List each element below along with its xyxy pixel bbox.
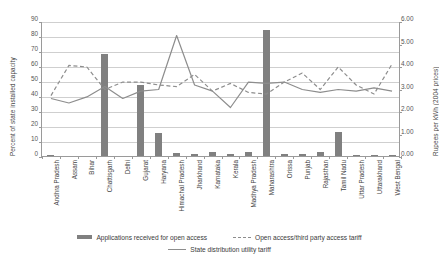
x-axis-label: Rajasthan (322, 160, 329, 188)
x-axis-label: Delhi (124, 160, 131, 174)
y-tick-label: 40 (31, 91, 38, 97)
x-axis-label: Jharkhand (196, 160, 203, 189)
y2-tick-label: 3.00 (401, 84, 413, 90)
x-axis-label: Andhra Pradesh (53, 160, 60, 206)
legend-item-applications: Applications received for open access (77, 234, 207, 241)
x-axis-label: Gujarat (142, 160, 149, 181)
legend-label: Open access/third party access tariff (255, 234, 362, 241)
y2-tick-label: 4.00 (401, 61, 413, 67)
y2-tick-label: 5.00 (401, 39, 413, 45)
x-axis-label: Himachal Pradesh (178, 160, 185, 211)
x-axis-labels: Andhra PradeshAssamBiharChattisgarhDelhi… (41, 160, 400, 228)
y-tick-label: 10 (31, 136, 38, 142)
state-utility-tariff-line (51, 36, 392, 108)
x-tick-mark (401, 156, 402, 159)
y2-tick-label: 1.00 (401, 129, 413, 135)
x-axis-label: Tamil Nadu (340, 160, 347, 192)
x-axis-label: Chattisgarh (106, 160, 113, 192)
legend-item-state-utility-tariff: State distribution utility tariff (168, 246, 271, 253)
y-axis-left-title: Percent of state installed capacity (9, 57, 16, 156)
line-series-layer (42, 22, 401, 157)
x-axis-label: Punjab (304, 160, 311, 180)
y-tick-label: 60 (31, 61, 38, 67)
y-tick-label: 70 (31, 46, 38, 52)
y-tick-label: 50 (31, 76, 38, 82)
x-axis-label: Karnataka (214, 160, 221, 189)
x-axis-label: Assam (71, 160, 78, 179)
legend-label: State distribution utility tariff (190, 246, 271, 253)
y-tick-label: 30 (31, 106, 38, 112)
y2-tick-label: 2.00 (401, 106, 413, 112)
y-tick-label: 80 (31, 31, 38, 37)
y-tick-label: 0 (34, 151, 38, 157)
x-axis-label: Maharashtra (268, 160, 275, 195)
x-axis-label: Bihar (88, 160, 95, 175)
x-axis-label: Uttarakhand (376, 160, 383, 194)
dashed-line-swatch-icon (233, 237, 251, 238)
y-tick-label: 90 (31, 16, 38, 22)
y-axis-left-ticks: 0102030405060708090 (16, 19, 38, 158)
x-axis-label: Uttar Pradesh (358, 160, 365, 199)
y2-tick-label: 0.00 (401, 151, 413, 157)
chart-figure: Percent of state installed capacity Rupe… (0, 0, 439, 267)
bar-swatch-icon (77, 235, 92, 239)
plot-area (41, 22, 400, 157)
x-axis-label: West Bengal (394, 160, 401, 196)
legend-label: Applications received for open access (96, 234, 207, 241)
y2-tick-label: 6.00 (401, 16, 413, 22)
y-axis-right-title: Rupees per kWh (2004 prices) (432, 67, 439, 156)
x-axis-label: Orissa (286, 160, 293, 178)
chart-legend: Applications received for open access Op… (0, 231, 439, 255)
y-tick-label: 20 (31, 121, 38, 127)
x-axis-label: Madhya Pradesh (250, 160, 257, 208)
y-axis-right-ticks: 0.001.002.003.004.005.006.00 (401, 19, 423, 158)
x-axis-label: Haryana (160, 160, 167, 184)
open-access-tariff-line (51, 64, 392, 95)
legend-item-open-access-tariff: Open access/third party access tariff (233, 234, 362, 241)
x-axis-label: Kerala (232, 160, 239, 178)
solid-line-swatch-icon (168, 249, 186, 250)
